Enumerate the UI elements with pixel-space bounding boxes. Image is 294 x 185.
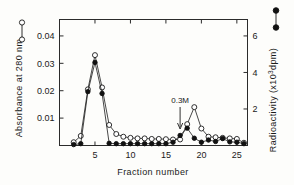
- y-tick-label-left: 0.01: [37, 113, 55, 123]
- y-tick-label-right: 6: [253, 31, 258, 41]
- x-tick-label: 5: [92, 150, 97, 160]
- y-axis-right-title-tail: dpm): [268, 48, 278, 70]
- data-point: [128, 135, 133, 140]
- x-axis-top-ticks: [95, 20, 237, 24]
- data-point: [107, 141, 111, 145]
- data-point: [220, 136, 224, 140]
- data-point: [114, 132, 119, 137]
- y-axis-left-legend-symbol: [19, 20, 24, 42]
- y-tick-label-left: 0.03: [37, 59, 55, 69]
- figure-container: 510152025 0.010.020.030.04 246 0.3M Frac…: [0, 0, 294, 185]
- data-point: [121, 141, 125, 145]
- x-axis-title: Fraction number: [117, 167, 189, 177]
- x-tick-label: 10: [125, 150, 135, 160]
- data-point: [100, 91, 104, 95]
- data-point: [185, 126, 189, 130]
- x-tick-label: 20: [196, 150, 206, 160]
- data-point: [242, 141, 246, 145]
- y-axis-left-tick-labels: 0.010.020.030.04: [37, 31, 55, 123]
- y-axis-left-ticks: [60, 36, 64, 118]
- data-point: [78, 133, 83, 138]
- y-axis-right-title-group: Radioactivity (x103dpm): [267, 48, 278, 152]
- data-point: [93, 60, 97, 64]
- data-point: [128, 141, 132, 145]
- plot-frame: [60, 20, 248, 146]
- data-point: [86, 89, 90, 93]
- data-point: [199, 126, 204, 131]
- data-point: [157, 141, 161, 145]
- y-axis-left-title: Absorbance at 280 nm: [14, 39, 24, 138]
- y-tick-label-right: 4: [253, 68, 258, 78]
- data-point: [92, 53, 97, 58]
- data-point: [79, 141, 83, 145]
- data-point: [206, 138, 210, 142]
- data-point: [235, 140, 239, 144]
- y-axis-right-legend-symbol: [273, 8, 279, 31]
- series-2: [71, 60, 246, 147]
- y-axis-right-title: Radioactivity (x10: [268, 74, 278, 152]
- data-point: [192, 136, 196, 140]
- data-point: [142, 136, 147, 141]
- chromatography-chart: 510152025 0.010.020.030.04 246 0.3M Frac…: [0, 0, 294, 185]
- svg-text:Radioactivity (x103dpm): Radioactivity (x103dpm): [267, 48, 278, 152]
- y-tick-label-left: 0.02: [37, 86, 55, 96]
- data-point: [142, 141, 146, 145]
- data-point: [171, 140, 175, 144]
- data-point: [107, 122, 112, 127]
- data-point: [163, 137, 168, 142]
- data-point: [199, 140, 203, 144]
- data-point: [135, 141, 139, 145]
- y-tick-label-right: 2: [253, 104, 258, 114]
- series-line: [74, 55, 244, 143]
- series-1: [71, 53, 246, 146]
- data-point: [178, 133, 182, 137]
- data-point: [150, 141, 154, 145]
- x-tick-label: 25: [232, 150, 242, 160]
- data-point: [192, 105, 197, 110]
- data-point: [71, 142, 75, 146]
- x-tick-label: 15: [161, 150, 171, 160]
- annotation-label: 0.3M: [171, 96, 189, 105]
- data-series-group: [71, 53, 246, 147]
- data-point: [164, 141, 168, 145]
- x-axis-tick-labels: 510152025: [92, 150, 241, 160]
- y-axis-right-ticks: [244, 36, 248, 109]
- data-point: [114, 141, 118, 145]
- data-point: [156, 136, 161, 141]
- y-tick-label-left: 0.04: [37, 31, 55, 41]
- data-point: [121, 134, 126, 139]
- data-point: [149, 136, 154, 141]
- data-point: [228, 140, 232, 144]
- y-axis-right-tick-labels: 246: [253, 31, 258, 114]
- data-point: [135, 136, 140, 141]
- data-point: [213, 139, 217, 143]
